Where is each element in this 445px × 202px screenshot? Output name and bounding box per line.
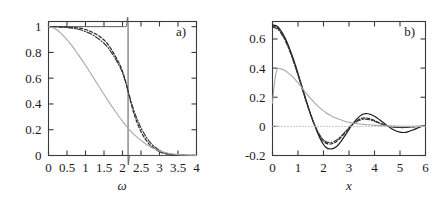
panel-b-plot: 0123456 -0.200.20.40.6 x b) [223, 0, 445, 202]
ytick-label: 0.8 [25, 45, 41, 60]
panel-b-label: b) [404, 24, 415, 39]
ytick-label: 0.2 [25, 122, 41, 137]
xtick-label: 4 [371, 160, 378, 175]
ytick-label: -0.2 [245, 148, 266, 163]
xtick-label: 2 [119, 160, 126, 175]
panel-a-axes [49, 22, 197, 156]
ytick-label: 0 [35, 148, 42, 163]
xtick-label: 2.5 [133, 160, 149, 175]
figure-root: 00.511.522.533.54 00.20.40.60.81 ω a) 01… [0, 0, 445, 202]
xtick-label: 2 [320, 160, 327, 175]
panel-a-xtick-labels: 00.511.522.533.54 [45, 160, 200, 175]
ytick-label: 0.2 [249, 90, 265, 105]
panel-a-label: a) [176, 24, 186, 39]
xtick-label: 3 [156, 160, 163, 175]
xtick-label: 0 [269, 160, 276, 175]
panel-a-curves [49, 17, 197, 165]
curve-dot-dashed-sigmoid [49, 27, 197, 156]
ytick-label: 0.6 [249, 31, 266, 46]
ytick-label: 1 [35, 19, 42, 34]
xtick-label: 6 [422, 160, 429, 175]
xtick-label: 3 [346, 160, 353, 175]
xtick-label: 1.5 [96, 160, 112, 175]
ytick-label: 0 [259, 119, 266, 134]
panel-b-xaxis-label: x [345, 178, 352, 193]
panel-b-ticks [273, 22, 426, 156]
xtick-label: 0 [45, 160, 52, 175]
curve-dashed-sigmoid [49, 27, 197, 156]
ytick-label: 0.4 [25, 96, 42, 111]
ytick-label: 0.4 [249, 61, 266, 76]
curve-gray-monotone-decay [273, 68, 426, 126]
ytick-label: 0.6 [25, 71, 42, 86]
panel-b-axes [273, 22, 426, 156]
panel-b-xtick-labels: 0123456 [269, 160, 429, 175]
panel-a-frame [49, 22, 197, 156]
panel-b-curves [273, 25, 426, 149]
curve-solid-oscillating [273, 25, 426, 149]
panel-b: 0123456 -0.200.20.40.6 x b) [223, 0, 445, 202]
panel-a-xaxis-label: ω [117, 178, 126, 193]
panel-a: 00.511.522.533.54 00.20.40.60.81 ω a) [0, 0, 222, 202]
xtick-label: 4 [193, 160, 200, 175]
xtick-label: 1 [82, 160, 89, 175]
curve-gray-slow-decay [49, 27, 197, 156]
xtick-label: 1 [295, 160, 302, 175]
panel-a-ticks [49, 22, 197, 156]
curve-dot-dashed-oscillating [273, 27, 426, 142]
panel-a-ytick-labels: 00.20.40.60.81 [25, 19, 42, 163]
xtick-label: 5 [397, 160, 404, 175]
xtick-label: 0.5 [59, 160, 75, 175]
xtick-label: 3.5 [170, 160, 186, 175]
panel-b-ytick-labels: -0.200.20.40.6 [245, 31, 266, 163]
panel-a-plot: 00.511.522.533.54 00.20.40.60.81 ω a) [0, 0, 222, 202]
curve-step-cutoff [49, 17, 197, 165]
panel-b-frame [273, 22, 426, 156]
